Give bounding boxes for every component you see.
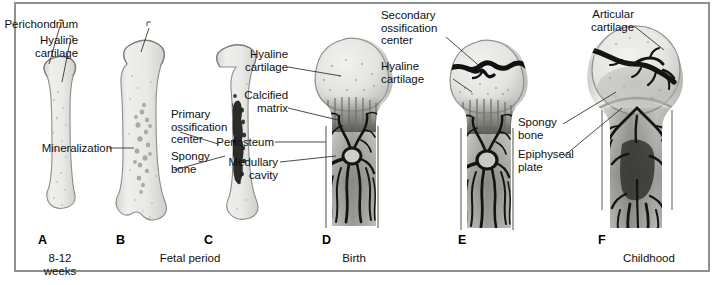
caption-a: 8-12 weeks bbox=[30, 252, 90, 278]
panel-letter-a: A bbox=[38, 233, 47, 247]
label-hyaline-cartilage-e: Hyaline cartilage bbox=[381, 60, 453, 85]
label-medullary-cavity: Medullary cavity bbox=[206, 156, 278, 181]
panel-letter-c: C bbox=[204, 233, 213, 247]
label-calcified-matrix: Calcified matrix bbox=[216, 89, 288, 114]
panel-letter-b: B bbox=[116, 233, 125, 247]
panel-letter-f: F bbox=[598, 233, 606, 247]
label-spongy-bone-f: Spongy bone bbox=[518, 116, 580, 141]
panel-e-art bbox=[446, 40, 528, 230]
label-periosteum: Periosteum bbox=[202, 136, 274, 149]
label-hyaline-cartilage-a: Hyaline cartilage bbox=[12, 34, 78, 59]
panel-letter-e: E bbox=[458, 233, 466, 247]
panel-a-art bbox=[44, 56, 76, 208]
caption-f: Childhood bbox=[606, 252, 692, 265]
label-articular-cartilage: Articular cartilage bbox=[562, 8, 634, 33]
label-secondary-ossification-center: Secondary ossification center bbox=[381, 9, 453, 47]
label-epiphyseal-plate: Epiphyseal plate bbox=[518, 148, 594, 173]
caption-b: Fetal period bbox=[142, 252, 238, 265]
caption-d: Birth bbox=[322, 252, 386, 265]
figure-frame: Perichondrium Hyaline cartilage Minerali… bbox=[14, 2, 710, 272]
label-mineralization: Mineralization bbox=[8, 142, 112, 155]
panel-letter-d: D bbox=[322, 233, 331, 247]
label-perichondrium: Perichondrium bbox=[0, 18, 78, 31]
label-hyaline-cartilage-d: Hyaline cartilage bbox=[216, 48, 288, 73]
panel-b-art bbox=[116, 40, 166, 220]
panel-f-art bbox=[586, 26, 683, 228]
